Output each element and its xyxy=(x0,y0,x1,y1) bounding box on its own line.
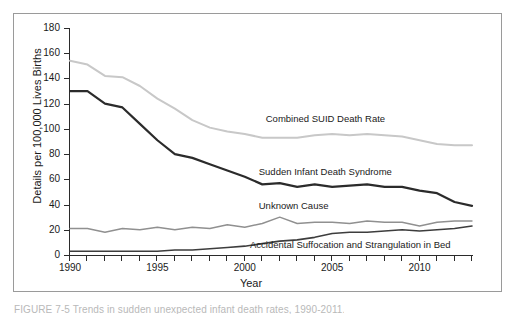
x-axis-tick xyxy=(209,256,210,261)
x-axis-tick-label: 1995 xyxy=(146,262,168,273)
figure-caption: FIGURE 7-5 Trends in sudden unexpected i… xyxy=(14,304,344,314)
x-axis-tick xyxy=(69,256,70,261)
x-axis-tick xyxy=(86,256,87,261)
y-axis-tick-label: 0 xyxy=(54,250,60,260)
y-axis-tick-label: 160 xyxy=(43,48,60,58)
plot-area: Combined SUID Death RateSudden Infant De… xyxy=(70,28,472,255)
x-axis-tick xyxy=(366,256,367,261)
figure-root: 020406080100120140160180 Details per 100… xyxy=(0,0,512,314)
y-axis-tick-label: 140 xyxy=(43,73,60,83)
x-axis-tick-label: 2010 xyxy=(408,262,430,273)
x-axis-tick-label: 1990 xyxy=(59,262,81,273)
x-axis-title: Year xyxy=(0,277,502,289)
x-axis-tick xyxy=(454,256,455,261)
x-axis-tick xyxy=(121,256,122,261)
x-axis-tick xyxy=(226,256,227,261)
x-axis-tick xyxy=(471,256,472,261)
x-axis-tick xyxy=(296,256,297,261)
series-lines xyxy=(70,28,472,255)
y-axis-title: Details per 100,000 Lives Births xyxy=(31,11,43,241)
x-axis-tick xyxy=(104,256,105,261)
x-axis-tick xyxy=(261,256,262,261)
y-axis-tick-label: 100 xyxy=(43,124,60,134)
series-label: Combined SUID Death Rate xyxy=(266,113,385,124)
y-axis-tick-label: 20 xyxy=(49,225,60,235)
y-axis-tick-label: 180 xyxy=(43,23,60,33)
y-axis-tick-label: 60 xyxy=(49,174,60,184)
series-line xyxy=(70,91,472,206)
x-axis-tick xyxy=(174,256,175,261)
x-axis-tick xyxy=(244,256,245,261)
x-axis-tick-label: 2005 xyxy=(321,262,343,273)
x-axis-tick xyxy=(279,256,280,261)
y-axis-tick-label: 80 xyxy=(49,149,60,159)
x-axis-tick xyxy=(314,256,315,261)
x-axis-tick xyxy=(419,256,420,261)
series-label: Accidental Suffocation and Strangulation… xyxy=(250,239,451,250)
series-label: Unknown Cause xyxy=(259,200,329,211)
series-line xyxy=(70,61,472,145)
x-axis-tick xyxy=(139,256,140,261)
y-axis-tick-label: 120 xyxy=(43,99,60,109)
x-axis-tick xyxy=(384,256,385,261)
x-axis-line xyxy=(69,255,473,256)
x-axis-tick xyxy=(156,256,157,261)
x-axis-tick xyxy=(331,256,332,261)
x-axis-tick xyxy=(191,256,192,261)
x-axis-tick xyxy=(401,256,402,261)
series-label: Sudden Infant Death Syndrome xyxy=(259,166,392,177)
x-axis-tick-label: 2000 xyxy=(234,262,256,273)
x-axis-tick xyxy=(349,256,350,261)
x-axis-tick xyxy=(436,256,437,261)
y-axis-tick-label: 40 xyxy=(49,200,60,210)
